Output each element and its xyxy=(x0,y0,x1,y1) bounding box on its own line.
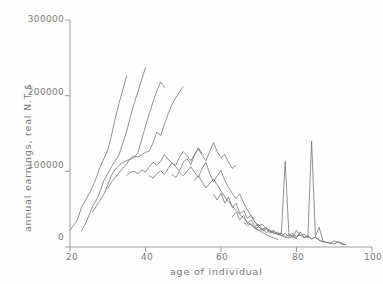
x-tick-label-100: 100 xyxy=(364,252,382,262)
x-tick-label-60: 60 xyxy=(216,252,228,262)
y-axis-title: annual earnings, real N.T.$ xyxy=(22,83,33,232)
y-tick-label-0: 0 xyxy=(14,232,64,242)
data-series-group xyxy=(70,68,346,245)
series-line-cohort-1 xyxy=(70,76,127,230)
series-line-cohort-3 xyxy=(93,82,165,212)
series-line-cohort-7 xyxy=(172,162,259,227)
x-tick-label-40: 40 xyxy=(141,252,153,262)
axis-lines xyxy=(70,20,372,247)
series-line-cohort-11 xyxy=(244,141,346,245)
x-axis-title: age of individual xyxy=(170,266,263,277)
series-line-cohort-6 xyxy=(149,143,236,179)
x-tick-label-80: 80 xyxy=(292,252,304,262)
x-tick-label-20: 20 xyxy=(66,252,78,262)
y-tick-label-300000: 300000 xyxy=(14,14,64,24)
series-line-cohort-2 xyxy=(81,68,145,231)
chart-figure: 300000 200000 100000 0 20 40 60 80 100 a… xyxy=(0,0,383,284)
series-line-cohort-9 xyxy=(213,193,296,238)
y-axis-ticks xyxy=(65,20,70,247)
